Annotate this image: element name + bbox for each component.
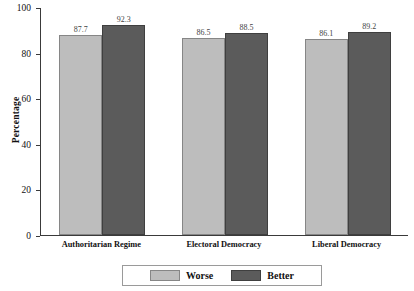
legend-swatch-better-icon — [231, 270, 261, 281]
y-tick-mark — [36, 236, 41, 237]
x-category-label: Electoral Democracy — [163, 240, 286, 249]
y-tick-label: 80 — [4, 49, 31, 59]
legend-label-better: Better — [267, 270, 294, 281]
y-tick-mark — [36, 145, 41, 146]
y-tick-mark — [36, 54, 41, 55]
y-tick-mark — [36, 8, 41, 9]
x-category-label: Authoritarian Regime — [40, 240, 163, 249]
legend-label-worse: Worse — [186, 270, 213, 281]
plot-area: 87.792.386.588.586.189.2 — [40, 8, 408, 236]
bar — [182, 38, 225, 235]
legend-item-worse: Worse — [150, 270, 213, 281]
y-tick-label: 20 — [4, 185, 31, 195]
x-category-label: Liberal Democracy — [285, 240, 408, 249]
bar-value-label: 89.2 — [348, 22, 391, 31]
bar-value-label: 92.3 — [102, 15, 145, 24]
bar — [102, 25, 145, 235]
y-tick-label: 40 — [4, 140, 31, 150]
bar-value-label: 87.7 — [59, 25, 102, 34]
y-tick-label: 60 — [4, 94, 31, 104]
y-tick-label: 100 — [4, 3, 31, 13]
bar-value-label: 88.5 — [225, 23, 268, 32]
bar-chart: Percentage 87.792.386.588.586.189.2 0204… — [0, 0, 414, 291]
bar-value-label: 86.1 — [305, 29, 348, 38]
plot-inner: 87.792.386.588.586.189.2 — [41, 8, 408, 235]
bar — [348, 32, 391, 235]
bar-value-label: 86.5 — [182, 28, 225, 37]
y-tick-mark — [36, 190, 41, 191]
y-axis-title: Percentage — [11, 75, 21, 165]
legend-item-better: Better — [231, 270, 294, 281]
y-tick-label: 0 — [4, 231, 31, 241]
y-tick-mark — [36, 99, 41, 100]
bar — [59, 35, 102, 235]
legend: Worse Better — [122, 265, 322, 286]
legend-swatch-worse-icon — [150, 270, 180, 281]
bar — [305, 39, 348, 235]
bar — [225, 33, 268, 235]
